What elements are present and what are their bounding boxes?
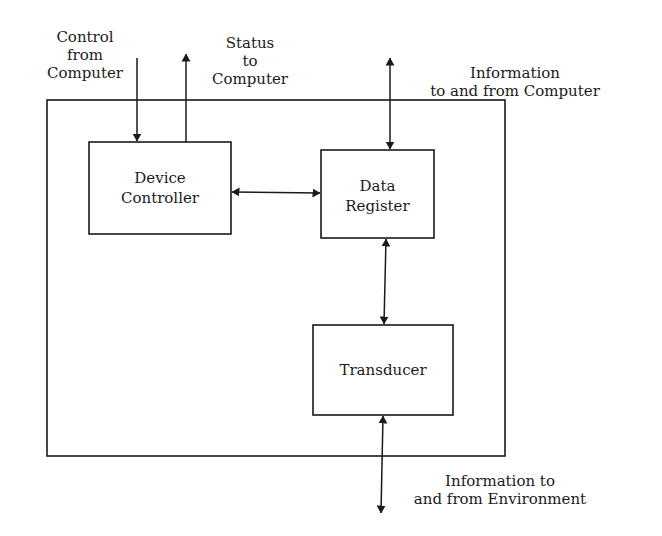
register-transducer-arrow [384,239,386,324]
data-register-line2: Register [345,196,409,216]
data-register-label: Data Register [321,152,434,240]
control-label-line2: from [35,46,135,64]
info-computer-line1: Information [410,64,620,82]
info-environment-line1: Information to [395,472,605,490]
device-controller-line1: Device [134,168,185,188]
control-label: Control from Computer [35,28,135,82]
device-controller-label: Device Controller [89,142,231,234]
device-controller-line2: Controller [121,188,199,208]
info-computer-line2: to and from Computer [410,82,620,100]
control-label-line1: Control [35,28,135,46]
status-label-line3: Computer [200,70,300,88]
info-environment-line2: and from Environment [395,490,605,508]
control-label-line3: Computer [35,64,135,82]
status-label: Status to Computer [200,34,300,88]
info-environment-label: Information to and from Environment [395,472,605,508]
status-label-line2: to [200,52,300,70]
controller-register-arrow [232,192,320,193]
status-label-line1: Status [200,34,300,52]
transducer-label: Transducer [313,325,453,415]
info-computer-label: Information to and from Computer [410,64,620,100]
transducer-line1: Transducer [339,360,426,380]
environment-arrow [381,416,383,513]
data-register-line1: Data [360,176,396,196]
